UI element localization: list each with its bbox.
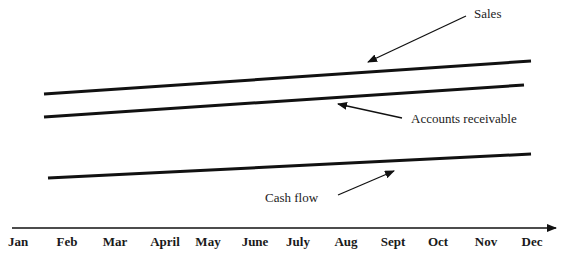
- sales-arrow: [368, 16, 466, 62]
- sales-label: Sales: [474, 6, 501, 22]
- month-label: April: [150, 234, 180, 250]
- month-label: Feb: [57, 234, 78, 250]
- cash-flow-arrow: [338, 171, 394, 195]
- month-label: Dec: [522, 234, 543, 250]
- cash-flow-line: [48, 154, 531, 178]
- diagram-canvas: [0, 0, 566, 259]
- month-label: Sept: [381, 234, 406, 250]
- month-label: July: [286, 234, 310, 250]
- accounts-receivable-arrow: [338, 104, 402, 118]
- month-label: Jan: [8, 234, 28, 250]
- month-label: Mar: [103, 234, 128, 250]
- month-label: Nov: [475, 234, 497, 250]
- accounts-receivable-label: Accounts receivable: [411, 111, 517, 127]
- cash-flow-label: Cash flow: [265, 190, 318, 206]
- month-label: Oct: [428, 234, 448, 250]
- month-label: May: [195, 234, 220, 250]
- month-label: Aug: [334, 234, 357, 250]
- month-label: June: [242, 234, 269, 250]
